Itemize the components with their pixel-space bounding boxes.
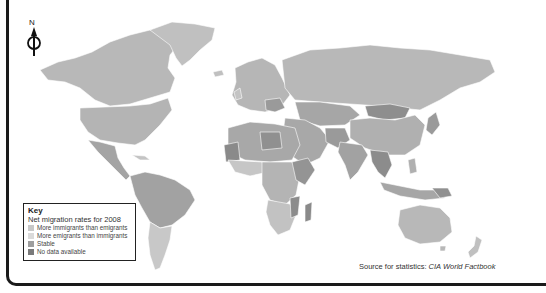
region-australia — [398, 205, 452, 244]
north-arrow-icon — [22, 18, 46, 58]
legend-item-more-immigrants: More immigrants than emigrants — [28, 224, 131, 232]
region-southeast-asia — [370, 150, 392, 178]
region-central-america — [88, 140, 130, 180]
region-tasmania — [440, 246, 446, 251]
legend-swatch — [28, 249, 34, 255]
legend-item-label: Stable — [37, 240, 55, 248]
source-attribution: Source for statistics: CIA World Factboo… — [359, 262, 495, 271]
region-mozambique — [290, 196, 300, 218]
compass: N — [22, 18, 46, 58]
legend-item-more-emigrants: More emigrants than immigrants — [28, 232, 131, 240]
region-india — [338, 142, 368, 180]
legend-swatch — [28, 233, 34, 239]
region-madagascar — [305, 202, 312, 222]
legend-item-label: No data available — [37, 248, 86, 256]
legend-title: Key — [28, 206, 131, 215]
region-new-zealand — [468, 236, 482, 258]
map-legend: Key Net migration rates for 2008 More im… — [23, 203, 136, 261]
region-south-america-north — [130, 172, 195, 228]
region-iceland — [213, 70, 224, 77]
legend-item-no-data: No data available — [28, 248, 131, 256]
region-caribbean — [132, 155, 150, 160]
legend-item-label: More emigrants than immigrants — [37, 232, 127, 240]
source-name: CIA World Factbook — [429, 262, 496, 271]
region-mongolia — [365, 104, 410, 120]
legend-item-stable: Stable — [28, 240, 131, 248]
legend-swatch — [28, 225, 34, 231]
legend-item-label: More immigrants than emigrants — [37, 224, 127, 232]
region-usa — [80, 98, 172, 145]
region-west-africa-dark — [224, 142, 240, 162]
region-japan — [426, 112, 440, 135]
region-libya — [260, 132, 282, 150]
legend-subtitle: Net migration rates for 2008 — [28, 215, 131, 224]
region-russia — [282, 45, 495, 110]
legend-swatch — [28, 241, 34, 247]
source-prefix: Source for statistics: — [359, 262, 429, 271]
region-philippines — [408, 158, 417, 174]
region-south-america-south — [148, 222, 172, 270]
